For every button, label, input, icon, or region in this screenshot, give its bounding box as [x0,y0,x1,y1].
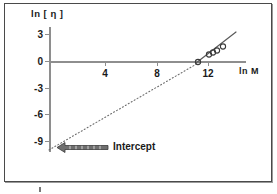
intercept-arrow-icon [57,143,108,153]
regression-line [196,32,236,63]
data-overlay [0,0,277,194]
data-point [220,44,225,49]
scan-artifact [39,187,41,192]
figure-canvas: 3 0 -3 -6 -9 4 8 12 ln [ η ] ln M [0,0,277,194]
extrapolation-line [49,62,200,150]
plot-area: 3 0 -3 -6 -9 4 8 12 ln [ η ] ln M [0,0,277,194]
intercept-annotation-label: Intercept [113,141,155,152]
